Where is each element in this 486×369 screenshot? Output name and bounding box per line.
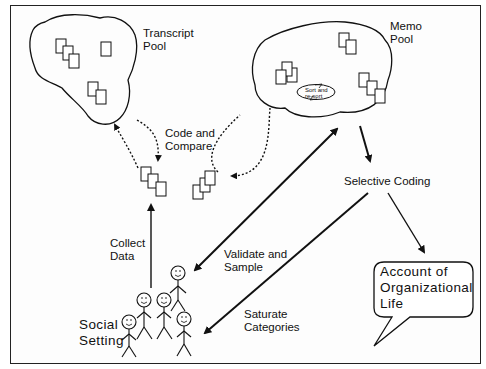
transcript-documents xyxy=(56,39,111,104)
validate-and-sample-label: Validate and Sample xyxy=(224,248,287,274)
sort-resort-label: Sort and re-sort xyxy=(305,87,328,99)
collect-data-label: Collect Data xyxy=(110,237,145,263)
code-and-compare-label: Code and Compare xyxy=(165,127,215,153)
coded-documents-right xyxy=(193,171,215,199)
memo-to-selective-coding-arrow xyxy=(360,126,370,161)
memo-documents xyxy=(276,33,385,103)
account-of-organizational-life-label: Account of Organizational Life xyxy=(380,264,473,312)
transcript-pool-label: Transcript Pool xyxy=(143,27,194,53)
selective-coding-to-account-arrow xyxy=(388,193,424,252)
social-setting-label: Social Setting xyxy=(79,317,124,349)
transcript-pool-cloud xyxy=(30,15,137,125)
selective-coding-label: Selective Coding xyxy=(344,175,430,188)
social-setting-people xyxy=(122,266,191,357)
coded-documents-left xyxy=(141,167,166,196)
memo-pool-cloud xyxy=(252,22,391,117)
memo-pool-label: Memo Pool xyxy=(390,20,422,46)
saturate-categories-label: Saturate Categories xyxy=(244,308,300,334)
